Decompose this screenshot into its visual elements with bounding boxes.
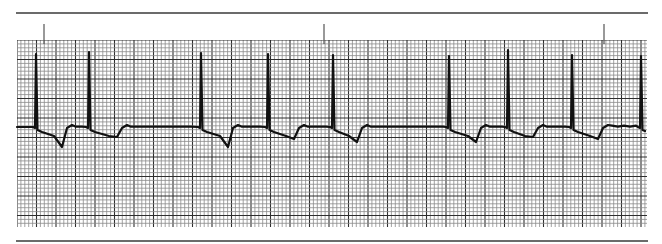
time-marker-ticks — [44, 24, 604, 44]
ecg-trace-layer — [0, 0, 662, 244]
ecg-trace — [17, 50, 645, 147]
